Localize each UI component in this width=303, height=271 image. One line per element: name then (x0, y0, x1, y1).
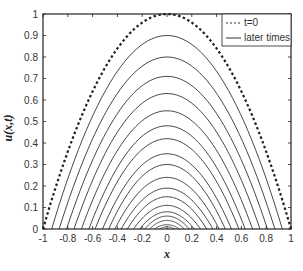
x-tick-label: 1 (288, 233, 294, 244)
x-tick-label: 0 (164, 233, 170, 244)
y-tick-label: 0.3 (24, 159, 38, 170)
x-tick-label: 0.4 (210, 233, 224, 244)
y-tick-label: 0.6 (24, 95, 38, 106)
x-tick-label: -0.6 (84, 233, 102, 244)
y-tick-label: 0.2 (24, 181, 38, 192)
x-axis-label: x (163, 247, 170, 261)
x-tick-label: -1 (39, 233, 48, 244)
later-time-curve (52, 36, 283, 230)
legend: t=0 later times (222, 14, 291, 46)
later-time-curve (121, 188, 213, 229)
x-tick-label: 0.6 (234, 233, 248, 244)
later-time-curve (103, 154, 232, 229)
legend-label-t0: t=0 (244, 17, 259, 28)
y-tick-label: 0.8 (24, 52, 38, 63)
y-axis-label: u(x,t) (1, 114, 15, 141)
y-tick-label: 0.4 (24, 138, 38, 149)
x-tick-label: 0.8 (259, 233, 273, 244)
y-tick-label: 0 (32, 224, 38, 235)
y-tick-label: 1 (32, 9, 38, 20)
x-tick-label: -0.8 (59, 233, 77, 244)
y-tick-label: 0.9 (24, 30, 38, 41)
later-time-curve (134, 205, 201, 229)
chart: -1-0.8-0.6-0.4-0.200.20.40.60.81 00.10.2… (0, 0, 303, 271)
later-time-curve (127, 197, 206, 229)
later-time-curve (115, 177, 219, 229)
x-tick-label: -0.4 (109, 233, 127, 244)
x-tick-label: -0.2 (134, 233, 152, 244)
later-time-curve (81, 111, 252, 229)
y-tick-label: 0.5 (24, 116, 38, 127)
x-tick-label: 0.2 (185, 233, 199, 244)
later-time-curve (67, 76, 268, 229)
later-time-curve (74, 94, 260, 229)
y-tick-label: 0.7 (24, 73, 38, 84)
legend-label-later: later times (244, 32, 290, 43)
y-tick-label: 0.1 (24, 202, 38, 213)
